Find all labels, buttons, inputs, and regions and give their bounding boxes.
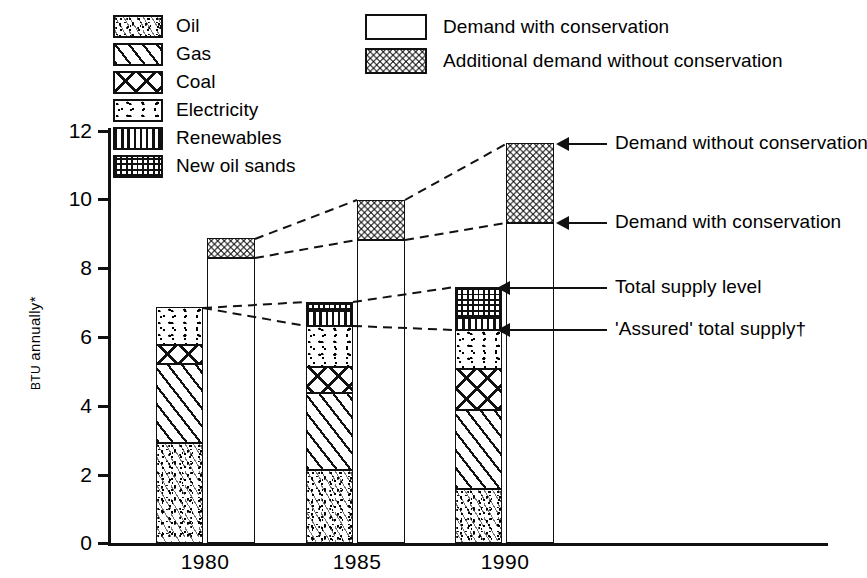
legend-label-coal: Coal xyxy=(176,71,215,93)
legend-item-new-oil-sands: New oil sands xyxy=(113,152,296,180)
annotation-label-demand-with-conservation: Demand with conservation xyxy=(615,211,841,233)
x-tick-label-1990: 1990 xyxy=(450,550,560,574)
supply-bar-1990 xyxy=(455,287,502,543)
oil-swatch xyxy=(113,15,163,38)
trend-demand-without-1985-1990 xyxy=(405,144,506,200)
supply-segment-coal-1985 xyxy=(306,367,353,393)
y-tick-10 xyxy=(98,198,109,201)
supply-segment-oil-1980 xyxy=(156,443,203,543)
supply-segment-renewables-1985 xyxy=(306,311,353,326)
legend-item-additional-demand: Additional demand without conservation xyxy=(365,44,783,78)
trend-demand-without-1980-1985 xyxy=(255,200,357,239)
legend-label-oil: Oil xyxy=(176,15,200,37)
renewables-swatch xyxy=(113,127,163,150)
supply-segment-new-oil-sands-1990 xyxy=(455,287,502,318)
y-tick-8 xyxy=(98,267,109,270)
legend-item-gas: Gas xyxy=(113,40,296,68)
supply-segment-oil-1990 xyxy=(455,489,502,543)
supply-bar-1985 xyxy=(306,302,353,543)
y-axis-title: BTU annually* xyxy=(26,390,120,407)
supply-segment-oil-1985 xyxy=(306,470,353,543)
y-tick-2 xyxy=(98,474,109,477)
annotation-line-total-supply-level xyxy=(500,287,607,289)
legend-item-demand-with-conservation: Demand with conservation xyxy=(365,10,783,44)
legend-label-new-oil-sands: New oil sands xyxy=(176,155,296,177)
legend-item-oil: Oil xyxy=(113,12,296,40)
supply-segment-electricity-1990 xyxy=(455,330,502,369)
legend-label-additional-demand: Additional demand without conservation xyxy=(443,50,783,72)
coal-swatch xyxy=(113,71,163,94)
legend-label-renewables: Renewables xyxy=(176,127,282,149)
legend-item-coal: Coal xyxy=(113,68,296,96)
legend-left: Oil Gas Coal Electricity Renewables New … xyxy=(113,12,296,180)
supply-segment-electricity-1985 xyxy=(306,326,353,367)
demand-segment-conservation-1990 xyxy=(506,223,554,543)
supply-segment-gas-1990 xyxy=(455,410,502,489)
y-tick-label-12: 12 xyxy=(48,120,92,141)
supply-segment-gas-1985 xyxy=(306,393,353,470)
y-tick-label-10: 10 xyxy=(48,188,92,209)
demand-bar-1990 xyxy=(506,143,554,543)
legend-item-electricity: Electricity xyxy=(113,96,296,124)
y-tick-6 xyxy=(98,336,109,339)
demand-segment-additional-1985 xyxy=(357,200,405,240)
x-tick-label-1980: 1980 xyxy=(150,550,260,574)
legend-item-renewables: Renewables xyxy=(113,124,296,152)
supply-segment-electricity-1980 xyxy=(156,307,203,345)
electricity-swatch xyxy=(113,99,163,122)
legend-right: Demand with conservation Additional dema… xyxy=(365,10,783,78)
legend-label-demand-with-conservation: Demand with conservation xyxy=(443,16,669,38)
demand-with-conservation-swatch xyxy=(365,14,427,40)
legend-label-electricity: Electricity xyxy=(176,99,258,121)
trend-demand-with-1980-1985 xyxy=(255,240,357,258)
demand-segment-additional-1980 xyxy=(207,238,255,258)
annotation-line-assured-total-supply xyxy=(500,329,607,331)
demand-bar-1985 xyxy=(357,200,405,543)
demand-segment-additional-1990 xyxy=(506,143,554,223)
supply-bar-1980 xyxy=(156,307,203,543)
additional-demand-swatch xyxy=(365,48,427,74)
demand-segment-conservation-1985 xyxy=(357,240,405,543)
annotation-arrow-total-supply-level xyxy=(497,281,510,295)
y-tick-12 xyxy=(98,130,109,133)
y-tick-label-0: 0 xyxy=(48,532,92,553)
x-tick-label-1985: 1985 xyxy=(302,550,412,574)
legend-label-gas: Gas xyxy=(176,43,211,65)
y-axis-title-smallcaps: BTU xyxy=(29,365,43,390)
y-tick-label-8: 8 xyxy=(48,257,92,278)
supply-segment-new-oil-sands-1985 xyxy=(306,302,353,311)
supply-segment-gas-1980 xyxy=(156,364,203,443)
x-axis-line xyxy=(108,543,828,546)
y-tick-label-2: 2 xyxy=(48,464,92,485)
y-tick-label-6: 6 xyxy=(48,326,92,347)
annotation-arrow-demand-with-conservation xyxy=(556,216,569,230)
supply-segment-renewables-1990 xyxy=(455,318,502,330)
annotation-arrow-assured-total-supply xyxy=(497,323,510,337)
chart-root: Oil Gas Coal Electricity Renewables New … xyxy=(0,0,867,578)
gas-swatch xyxy=(113,43,163,66)
demand-segment-conservation-1980 xyxy=(207,258,255,543)
y-axis-title-rest: annually* xyxy=(26,296,43,365)
annotation-arrow-demand-without-conservation xyxy=(556,137,569,151)
supply-segment-coal-1980 xyxy=(156,345,203,364)
trend-demand-with-1985-1990 xyxy=(405,223,506,240)
demand-bar-1980 xyxy=(207,238,255,543)
annotation-label-total-supply-level: Total supply level xyxy=(615,276,762,298)
supply-segment-coal-1990 xyxy=(455,369,502,410)
new-oil-sands-swatch xyxy=(113,155,163,178)
annotation-label-demand-without-conservation: Demand without conservation xyxy=(615,132,867,154)
annotation-label-assured-total-supply: 'Assured' total supply† xyxy=(615,318,806,340)
